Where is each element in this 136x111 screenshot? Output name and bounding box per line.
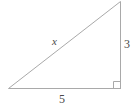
triangle-graphic [0,0,136,111]
base-label: 5 [59,93,65,105]
hypotenuse-label: x [52,36,57,47]
right-angle-marker-icon [114,82,121,89]
hypotenuse-line [9,2,121,89]
right-triangle-figure: x 3 5 [0,0,136,111]
vertical-leg-label: 3 [124,38,130,50]
